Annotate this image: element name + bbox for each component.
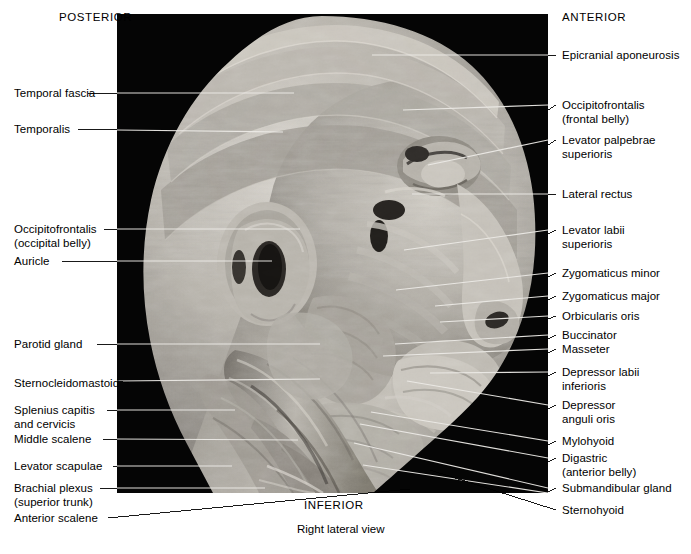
leader-depressor-anguli-oris	[548, 405, 556, 409]
label-levator-scapulae: Levator scapulae	[14, 460, 102, 474]
label-submandibular-gland: Submandibular gland	[562, 482, 672, 496]
label-levator-palpebrae-superioris: Levator palpebrae superioris	[562, 134, 656, 161]
label-depressor-labii-inferioris: Depressor labii inferioris	[562, 366, 639, 393]
label-middle-scalene: Middle scalene	[14, 433, 91, 447]
label-splenius-capitis-and-cervicis: Splenius capitis and cervicis	[14, 404, 95, 431]
leader-zygomaticus-minor	[548, 273, 556, 277]
label-parotid-gland: Parotid gland	[14, 338, 82, 352]
label-temporalis: Temporalis	[14, 123, 70, 137]
leader-zygomaticus-major	[548, 296, 556, 300]
label-masseter: Masseter	[562, 343, 610, 357]
leader-levator-labii	[548, 230, 556, 234]
leader-buccinator	[548, 335, 556, 339]
label-occipitofrontalis-occipital-belly: Occipitofrontalis (occipital belly)	[14, 223, 97, 250]
leader-submandibular-gland	[548, 488, 556, 492]
label-occipitofrontalis-frontal-belly: Occipitofrontalis (frontal belly)	[562, 99, 645, 126]
label-temporal-fascia: Temporal fascia	[14, 87, 95, 101]
label-lateral-rectus: Lateral rectus	[562, 188, 632, 202]
label-epicranial-aponeurosis: Epicranial aponeurosis	[562, 49, 679, 63]
label-depressor-anguli-oris: Depressor anguli oris	[562, 399, 616, 426]
leader-orbicularis-oris	[548, 316, 556, 319]
label-sternocleidomastoid: Sternocleidomastoid	[14, 377, 119, 391]
label-brachial-plexus-superior-trunk: Brachial plexus (superior trunk)	[14, 482, 93, 509]
label-digastric-anterior-belly: Digastric (anterior belly)	[562, 452, 636, 479]
figure-caption: Right lateral view	[297, 523, 385, 535]
direction-anterior: ANTERIOR	[562, 11, 626, 23]
leader-mylohyoid	[548, 441, 556, 445]
label-zygomaticus-major: Zygomaticus major	[562, 290, 660, 304]
figure-page: POSTERIOR ANTERIOR INFERIOR Right latera…	[0, 0, 691, 554]
cadaver-dissection-image	[117, 14, 548, 493]
direction-posterior: POSTERIOR	[59, 11, 132, 23]
leader-masseter	[548, 349, 556, 353]
label-auricle: Auricle	[14, 255, 50, 269]
leader-digastric	[548, 458, 556, 462]
leader-levator-palpebrae	[548, 140, 556, 145]
label-anterior-scalene: Anterior scalene	[14, 512, 98, 526]
leader-anterior-scalene	[108, 489, 410, 518]
leader-depressor-labii	[548, 372, 556, 376]
leader-temporalis	[84, 129, 117, 130]
direction-inferior: INFERIOR	[304, 499, 364, 511]
label-orbicularis-oris: Orbicularis oris	[562, 310, 639, 324]
label-sternohyoid: Sternohyoid	[562, 504, 624, 518]
leader-occipitofrontalis-frontal	[548, 105, 556, 110]
label-levator-labii-superioris: Levator labii superioris	[562, 224, 625, 251]
label-mylohyoid: Mylohyoid	[562, 435, 614, 449]
anatomy-photograph	[117, 14, 548, 493]
label-buccinator: Buccinator	[562, 329, 617, 343]
label-zygomaticus-minor: Zygomaticus minor	[562, 267, 660, 281]
